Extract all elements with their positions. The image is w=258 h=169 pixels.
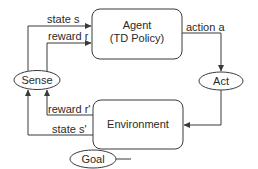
agent-label: Agent: [92, 20, 182, 31]
agent-sublabel: (TD Policy): [92, 33, 182, 44]
edge-act-environment: [184, 90, 221, 125]
edge-reward-r: [47, 43, 91, 72]
reward-r-prime-label: reward r': [48, 104, 90, 115]
edge-action-a: [182, 33, 221, 71]
state-s-label: state s: [47, 14, 79, 25]
act-label: Act: [199, 76, 243, 87]
sense-label: Sense: [14, 75, 60, 86]
goal-label: Goal: [70, 154, 116, 165]
environment-label: Environment: [93, 119, 183, 130]
action-a-label: action a: [186, 22, 225, 33]
reward-r-label: reward r: [48, 31, 88, 42]
state-s-prime-label: state s': [52, 124, 87, 135]
